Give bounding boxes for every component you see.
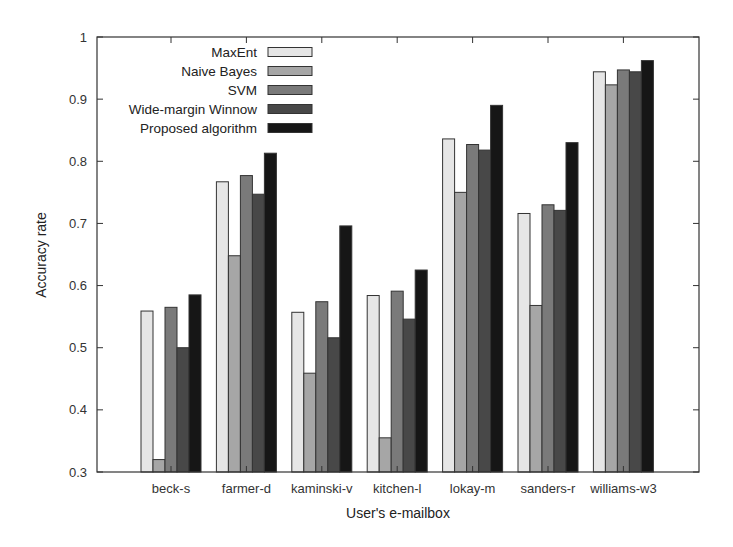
y-tick-label: 1: [80, 30, 87, 45]
bar-wide-margin-winnow: [629, 72, 641, 472]
y-tick-label: 0.8: [69, 154, 87, 169]
bar-group-lokay-m: [443, 105, 503, 472]
bar-maxent: [216, 182, 228, 472]
y-tick-label: 0.5: [69, 340, 87, 355]
legend-swatch: [268, 86, 312, 95]
y-tick-label: 0.6: [69, 278, 87, 293]
bar-wide-margin-winnow: [328, 338, 340, 472]
legend-item: Proposed algorithm: [140, 121, 312, 136]
bar-svm: [316, 302, 328, 472]
bar-proposed-algorithm: [415, 270, 427, 472]
bar-proposed-algorithm: [264, 153, 276, 472]
legend-swatch: [268, 124, 312, 133]
accuracy-bar-chart: 0.30.40.50.60.70.80.91beck-sfarmer-dkami…: [0, 0, 733, 547]
legend-label: MaxEnt: [211, 45, 257, 60]
bar-maxent: [593, 72, 605, 472]
bar-svm: [467, 145, 479, 472]
bar-naive-bayes: [379, 438, 391, 472]
x-tick-label: sanders-r: [521, 481, 577, 496]
x-tick-label: kaminski-v: [291, 481, 353, 496]
legend-item: Naive Bayes: [181, 64, 312, 79]
y-tick-label: 0.9: [69, 92, 87, 107]
y-tick-label: 0.7: [69, 216, 87, 231]
legend-swatch: [268, 48, 312, 57]
bar-naive-bayes: [530, 305, 542, 472]
bar-naive-bayes: [228, 256, 240, 472]
bar-proposed-algorithm: [491, 105, 503, 472]
x-tick-label: kitchen-l: [373, 481, 422, 496]
bar-wide-margin-winnow: [403, 319, 415, 472]
bar-maxent: [367, 296, 379, 472]
bar-wide-margin-winnow: [252, 194, 264, 472]
bar-maxent: [141, 311, 153, 472]
legend-label: SVM: [228, 83, 257, 98]
legend: MaxEntNaive BayesSVMWide-margin WinnowPr…: [129, 45, 312, 136]
bar-proposed-algorithm: [189, 295, 201, 472]
bar-svm: [617, 70, 629, 472]
bar-naive-bayes: [153, 460, 165, 472]
bar-group-kaminski-v: [292, 226, 352, 472]
x-tick-label: lokay-m: [450, 481, 496, 496]
bar-maxent: [518, 213, 530, 472]
bar-svm: [391, 291, 403, 472]
legend-label: Proposed algorithm: [140, 121, 257, 136]
bar-naive-bayes: [455, 192, 467, 472]
bar-group-farmer-d: [216, 153, 276, 472]
bar-naive-bayes: [605, 85, 617, 472]
bar-group-beck-s: [141, 295, 201, 472]
bar-group-williams-w3: [593, 61, 653, 472]
x-tick-label: williams-w3: [589, 481, 656, 496]
bar-wide-margin-winnow: [479, 150, 491, 472]
legend-item: Wide-margin Winnow: [129, 102, 312, 117]
y-tick-label: 0.3: [69, 465, 87, 480]
bar-svm: [240, 176, 252, 472]
bar-group-sanders-r: [518, 143, 578, 472]
bar-wide-margin-winnow: [554, 210, 566, 472]
x-axis-title: User's e-mailbox: [346, 505, 450, 521]
legend-swatch: [268, 105, 312, 114]
legend-label: Wide-margin Winnow: [129, 102, 258, 117]
y-tick-label: 0.4: [69, 402, 87, 417]
bar-naive-bayes: [304, 373, 316, 472]
bar-proposed-algorithm: [566, 143, 578, 472]
bar-maxent: [292, 312, 304, 472]
x-tick-label: farmer-d: [222, 481, 271, 496]
legend-item: SVM: [228, 83, 312, 98]
legend-swatch: [268, 67, 312, 76]
bar-wide-margin-winnow: [177, 348, 189, 472]
bar-svm: [165, 307, 177, 472]
bar-svm: [542, 205, 554, 472]
bar-proposed-algorithm: [340, 226, 352, 472]
legend-label: Naive Bayes: [181, 64, 257, 79]
bar-maxent: [443, 139, 455, 472]
bar-proposed-algorithm: [641, 61, 653, 472]
legend-item: MaxEnt: [211, 45, 312, 60]
y-axis-title: Accuracy rate: [33, 212, 49, 298]
x-tick-label: beck-s: [152, 481, 191, 496]
bar-group-kitchen-l: [367, 270, 427, 472]
